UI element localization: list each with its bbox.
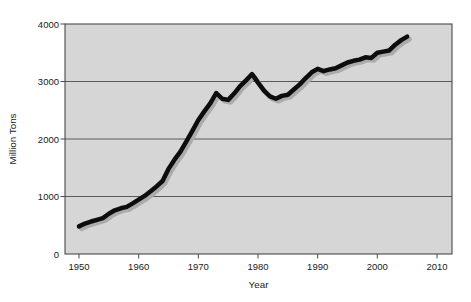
y-tick-label: 4000 [38,19,59,30]
x-tick-label: 1980 [247,261,268,272]
y-tick-label: 2000 [38,134,59,145]
x-axis-title: Year [249,279,270,290]
line-chart-figure: 1950196019701980199020002010010002000300… [0,0,471,302]
y-tick-label: 1000 [38,191,59,202]
x-tick-label: 2000 [367,261,388,272]
x-tick-label: 1960 [128,261,149,272]
x-tick-label: 1970 [188,261,209,272]
x-tick-label: 1990 [307,261,328,272]
y-tick-label: 0 [54,249,59,260]
x-tick-label: 1950 [68,261,89,272]
x-tick-label: 2010 [426,261,447,272]
y-tick-label: 3000 [38,76,59,87]
chart-canvas: 1950196019701980199020002010010002000300… [0,0,471,302]
y-axis-title: Million Tons [7,113,18,164]
